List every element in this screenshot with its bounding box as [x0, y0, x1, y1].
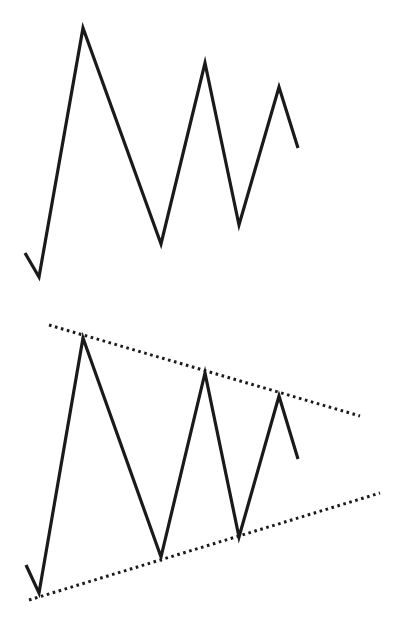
panel-top [25, 28, 298, 277]
price-zigzag-line-with-triangle [26, 338, 298, 593]
triangle-pattern-diagram [0, 0, 406, 620]
lower-support-trendline [29, 493, 380, 600]
panel-bottom [26, 325, 380, 600]
diagram-canvas [0, 0, 406, 620]
price-zigzag-line [25, 28, 298, 277]
